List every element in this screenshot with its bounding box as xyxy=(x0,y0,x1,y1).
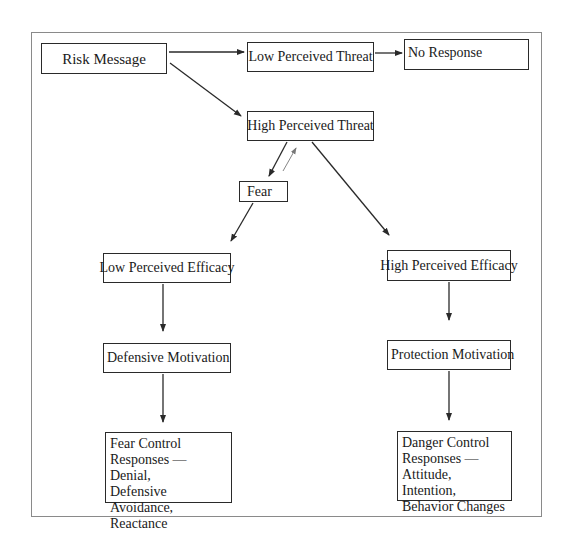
node-label: Risk Message xyxy=(62,51,146,67)
node-label-line: Responses — Denial, xyxy=(110,452,227,484)
node-label-line: Behavior Changes xyxy=(402,499,507,515)
node-label: Defensive Motivation xyxy=(107,350,229,366)
node-label-line: Responses — xyxy=(402,451,507,467)
node-label-line: Attitude, Intention, xyxy=(402,467,507,499)
node-fear-control-responses: Fear Control Responses — Denial, Defensi… xyxy=(105,432,232,503)
node-defensive-motivation: Defensive Motivation xyxy=(103,343,231,373)
node-low-perceived-efficacy: Low Perceived Efficacy xyxy=(103,253,231,283)
node-no-response: No Response xyxy=(404,39,529,70)
node-risk-message: Risk Message xyxy=(41,43,167,74)
node-label: No Response xyxy=(408,45,482,61)
node-high-perceived-efficacy: High Perceived Efficacy xyxy=(387,250,511,281)
node-label-line: Danger Control xyxy=(402,435,507,451)
arrow-fear-to-low-efficacy xyxy=(231,203,253,241)
arrow-high-threat-to-high-efficacy xyxy=(312,142,389,235)
node-label: Low Perceived Threat xyxy=(248,49,372,65)
node-protection-motivation: Protection Motivation xyxy=(387,340,511,370)
node-label: High Perceived Threat xyxy=(247,118,373,134)
arrow-risk-to-high-threat xyxy=(170,63,241,116)
node-label: Low Perceived Efficacy xyxy=(100,260,235,276)
arrow-fear-to-high-threat xyxy=(283,148,296,171)
node-fear: Fear xyxy=(239,181,288,202)
node-label-line: Defensive Avoidance, xyxy=(110,484,227,516)
node-high-perceived-threat: High Perceived Threat xyxy=(247,111,374,141)
node-label: Fear xyxy=(247,184,272,200)
arrow-high-threat-to-fear xyxy=(269,142,287,176)
node-label-line: Fear Control xyxy=(110,436,227,452)
node-low-perceived-threat: Low Perceived Threat xyxy=(247,42,374,72)
node-label: Protection Motivation xyxy=(391,347,514,363)
node-label-line: Reactance xyxy=(110,516,227,532)
node-danger-control-responses: Danger Control Responses — Attitude, Int… xyxy=(397,431,512,501)
node-label: High Perceived Efficacy xyxy=(380,258,517,274)
